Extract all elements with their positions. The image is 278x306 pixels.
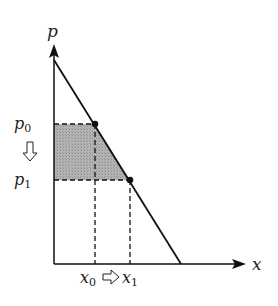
demand-diagram: p x p0 p1 x0 x1 — [0, 0, 278, 306]
quantity-label-x0: x0 — [80, 268, 96, 289]
quantity-right-arrow-icon — [103, 270, 119, 284]
price-label-p1: p1 — [14, 170, 31, 191]
price-label-p0: p0 — [14, 114, 31, 135]
x-axis-label: x — [252, 254, 262, 274]
quantity-label-x1: x1 — [122, 268, 138, 289]
point-p0-x0 — [92, 121, 99, 128]
point-p1-x1 — [127, 177, 134, 184]
y-axis-label: p — [47, 21, 58, 41]
price-down-arrow-icon — [23, 142, 37, 161]
shaded-area — [54, 124, 130, 180]
